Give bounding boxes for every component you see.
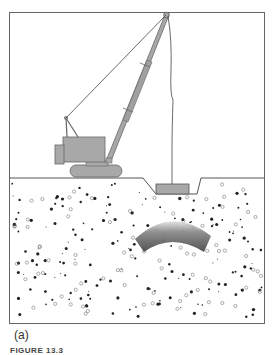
soil-surface <box>10 178 265 194</box>
crane <box>55 12 173 184</box>
soil-particles <box>11 183 262 318</box>
tamper-weight <box>156 184 189 194</box>
figure-caption: FIGURE 13.3 <box>10 346 64 355</box>
crane-counterweight <box>55 145 64 164</box>
hoist-cable <box>168 16 173 184</box>
pendant-cable <box>66 15 166 118</box>
crane-cab <box>63 137 105 162</box>
crane-tracks <box>70 165 122 177</box>
panel-label: (a) <box>14 328 29 342</box>
